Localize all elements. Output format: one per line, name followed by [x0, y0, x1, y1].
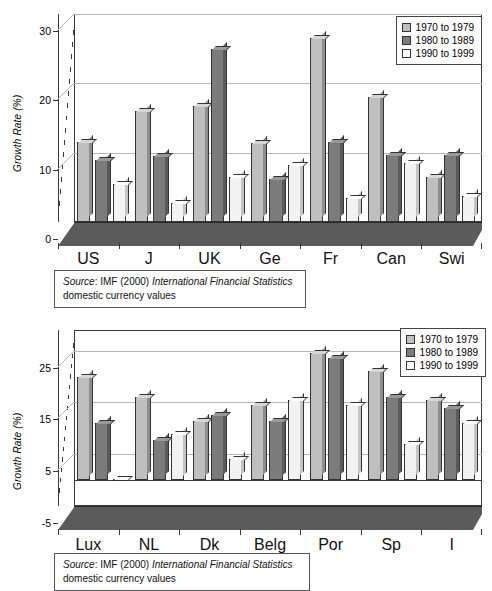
bar-belg-series1	[269, 421, 282, 481]
legend-label: 1980 to 1989	[416, 35, 474, 46]
bar-lux-series1	[95, 423, 108, 480]
bar-ge-series1	[269, 179, 282, 222]
legend-swatch-icon	[402, 23, 411, 32]
bar-group-belg	[248, 330, 306, 506]
bar-can-series1	[386, 155, 399, 222]
bar-group-uk	[190, 14, 248, 222]
bar-slot	[94, 330, 112, 506]
legend-item-2: 1990 to 1999	[406, 359, 478, 372]
x-tick-can: Can	[361, 250, 422, 266]
bar-slot	[327, 330, 345, 506]
bar-j-series2	[171, 203, 184, 222]
bar-slot	[309, 330, 327, 506]
bar-por-series1	[328, 358, 341, 480]
source-line2-bottom: domestic currency values	[63, 573, 176, 584]
bar-por-series2	[346, 405, 359, 480]
bar-ge-series2	[288, 165, 301, 222]
bar-slot	[228, 330, 246, 506]
source-note-bottom: Source: IMF (2000) International Financi…	[54, 553, 310, 591]
bar-sp-series0	[368, 371, 381, 480]
y-tick-label-top: 30	[39, 25, 58, 37]
bar-slot	[327, 14, 345, 222]
bar-slot	[210, 330, 228, 506]
x-tick-dk: Dk	[179, 536, 240, 552]
x-tick-us: US	[58, 250, 119, 266]
bar-slot	[287, 14, 305, 222]
bar-nl-series0	[135, 397, 148, 480]
bar-j-series1	[153, 156, 166, 222]
source-label-top: Source	[63, 276, 95, 287]
bar-por-series0	[310, 353, 323, 480]
legend-item-0: 1970 to 1979	[402, 21, 474, 34]
bar-belg-series2	[288, 400, 301, 480]
legend-swatch-icon	[406, 348, 415, 357]
bar-dk-series1	[211, 415, 224, 480]
bar-slot	[268, 330, 286, 506]
bar-sp-series2	[404, 444, 417, 480]
legend-top: 1970 to 19791980 to 19891990 to 1999	[396, 16, 482, 65]
source-line2-top: domestic currency values	[63, 290, 176, 301]
y-tick-label-bottom: 15	[39, 413, 58, 425]
y-tick-label-bottom: -5	[42, 517, 58, 529]
bar-slot	[94, 14, 112, 222]
x-tick-swi: Swi	[421, 250, 482, 266]
y-tick-label-bottom: 25	[39, 362, 58, 374]
source-label-bottom: Source	[63, 559, 95, 570]
source-body-bottom: : IMF (2000)	[95, 559, 152, 570]
x-tick-i: I	[421, 536, 482, 552]
bar-uk-series0	[193, 106, 206, 222]
bar-slot	[152, 14, 170, 222]
bar-slot	[76, 14, 94, 222]
bar-slot	[345, 14, 363, 222]
bar-slot	[170, 14, 188, 222]
x-ticks-bottom: LuxNLDkBelgPorSpI	[58, 536, 482, 552]
bar-can-series0	[368, 97, 381, 222]
legend-swatch-icon	[402, 49, 411, 58]
x-tick-lux: Lux	[58, 536, 119, 552]
chart-figure-top: Growth Rate (%) 0102030 USJUKGeFrCanSwi …	[0, 0, 492, 300]
bar-slot	[152, 330, 170, 506]
x-tick-ge: Ge	[240, 250, 301, 266]
bar-slot	[250, 330, 268, 506]
bar-i-series0	[426, 400, 439, 480]
bar-us-series0	[77, 142, 90, 222]
y-tick-label-top: 10	[39, 164, 58, 176]
bar-fr-series2	[346, 198, 359, 222]
bar-swi-series0	[426, 177, 439, 222]
bar-j-series0	[135, 111, 148, 222]
legend-item-0: 1970 to 1979	[406, 333, 478, 346]
x-tick-nl: NL	[119, 536, 180, 552]
x-tick-fr: Fr	[300, 250, 361, 266]
x-tick-sp: Sp	[361, 536, 422, 552]
x-tick-uk: UK	[179, 250, 240, 266]
bar-us-series1	[95, 160, 108, 222]
bar-dk-series0	[193, 421, 206, 481]
y-axis-label-top: Growth Rate (%)	[12, 95, 23, 172]
bar-lux-series0	[77, 377, 90, 481]
bar-slot	[192, 330, 210, 506]
chart-figure-bottom: Growth Rate (%) -551525 LuxNLDkBelgPorSp…	[0, 300, 492, 586]
bar-group-fr	[307, 14, 365, 222]
y-tick-label-bottom: 5	[45, 465, 58, 477]
legend-swatch-icon	[406, 335, 415, 344]
bar-slot	[112, 14, 130, 222]
axis-depth-left-top	[58, 14, 75, 222]
legend-swatch-icon	[402, 36, 411, 45]
legend-label: 1990 to 1999	[420, 360, 478, 371]
bar-can-series2	[404, 163, 417, 222]
floor-slab-bottom	[58, 506, 482, 530]
bar-slot	[192, 14, 210, 222]
bar-group-j	[132, 14, 190, 222]
bar-i-series2	[462, 423, 475, 480]
bar-slot	[367, 14, 385, 222]
x-tick-j: J	[119, 250, 180, 266]
legend-bottom: 1970 to 19791980 to 19891990 to 1999	[400, 328, 486, 377]
legend-label: 1990 to 1999	[416, 48, 474, 59]
bar-slot	[76, 330, 94, 506]
bar-belg-series0	[251, 405, 264, 480]
bar-nl-series1	[153, 440, 166, 480]
y-axis-line-top	[58, 14, 59, 222]
y-tick-label-top: 20	[39, 94, 58, 106]
x-ticks-top: USJUKGeFrCanSwi	[58, 250, 482, 266]
bar-uk-series1	[211, 49, 224, 222]
